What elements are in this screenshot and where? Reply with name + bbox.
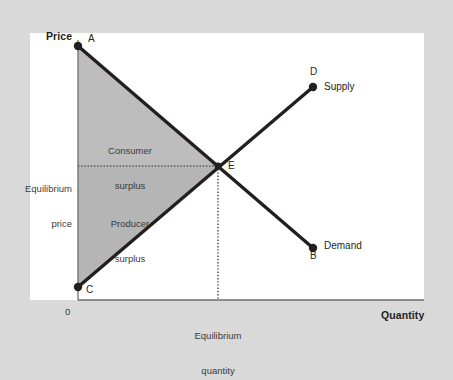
- point-d-label: D: [310, 66, 317, 78]
- producer-surplus-label-line2: surplus: [84, 253, 176, 265]
- point-e-label: E: [228, 160, 235, 172]
- equilibrium-price-label-line2: price: [0, 218, 72, 230]
- origin-label: 0: [65, 306, 70, 317]
- point-c-marker[interactable]: [74, 283, 82, 291]
- producer-surplus-label-line1: Producer: [84, 218, 176, 230]
- point-b-label: B: [310, 250, 317, 262]
- equilibrium-quantity-label-line2: quantity: [163, 365, 273, 377]
- y-axis-title: Price: [46, 30, 72, 42]
- supply-curve-label: Supply: [324, 81, 355, 93]
- equilibrium-quantity-label-line1: Equilibrium: [163, 330, 273, 342]
- x-axis-title: Quantity: [381, 309, 424, 321]
- consumer-surplus-label-line2: surplus: [84, 180, 176, 192]
- point-a-label: A: [88, 33, 95, 45]
- point-a-marker[interactable]: [74, 42, 82, 50]
- equilibrium-price-label-line1: Equilibrium: [0, 183, 72, 195]
- producer-surplus-label: Producer surplus: [84, 194, 176, 289]
- consumer-surplus-label-line1: Consumer: [84, 145, 176, 157]
- demand-curve-label: Demand: [324, 240, 362, 252]
- equilibrium-quantity-label: Equilibrium quantity: [163, 306, 273, 380]
- point-d-marker[interactable]: [309, 83, 317, 91]
- equilibrium-price-label: Equilibrium price: [0, 159, 72, 254]
- point-e-marker[interactable]: [215, 163, 222, 170]
